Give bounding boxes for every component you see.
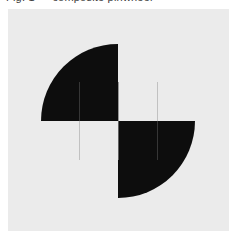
screenshot-root: Fig. 1 — composite pinwheel [0,0,236,240]
clipped-header-strip: Fig. 1 — composite pinwheel [0,0,236,9]
cell-top-left-inverted [80,82,119,121]
cell-bottom-left-inverted [80,121,119,160]
clipped-header-text: Fig. 1 — composite pinwheel [6,0,153,3]
cell-top-right-inverted [119,82,158,121]
figure-panel [8,9,229,231]
checkerboard-circle-svg [8,9,229,231]
cell-bottom-right-inverted [119,121,158,160]
board-inversion-inside-circle [80,82,158,160]
geometric-figure [8,9,229,231]
